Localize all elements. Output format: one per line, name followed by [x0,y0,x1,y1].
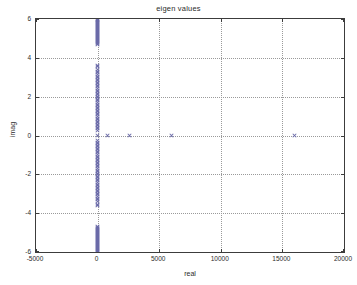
y-axis-tick [341,19,344,20]
x-axis-tick [282,249,283,252]
y-tick-label: 6 [8,15,31,22]
y-axis-tick [36,174,39,175]
y-axis-label: imag [9,110,16,150]
plot-area [35,18,345,253]
y-axis-tick [36,251,39,252]
x-axis-tick [159,249,160,252]
x-axis-tick [159,19,160,22]
x-tick-label: 5000 [151,255,165,262]
x-axis-tick [98,19,99,22]
y-axis-tick [36,213,39,214]
gridline-horizontal [36,174,344,175]
x-axis-tick [221,249,222,252]
y-tick-label: -2 [8,170,31,177]
y-axis-tick [341,136,344,137]
x-axis-tick [98,249,99,252]
y-axis-tick [36,19,39,20]
gridline-horizontal [36,58,344,59]
x-tick-label: 15000 [272,255,290,262]
x-tick-label: 10000 [211,255,229,262]
y-axis-tick [36,97,39,98]
x-tick-label: -5000 [27,255,44,262]
x-axis-label: real [35,270,345,277]
chart-title: eigen values [0,4,357,13]
x-tick-label: 0 [95,255,99,262]
y-axis-tick [36,136,39,137]
x-axis-tick [221,19,222,22]
y-axis-tick [341,174,344,175]
x-axis-tick [282,19,283,22]
y-axis-tick [36,58,39,59]
gridline-horizontal [36,213,344,214]
y-axis-tick [341,213,344,214]
y-tick-label: -6 [8,248,31,255]
x-tick-label: 20000 [334,255,352,262]
y-tick-label: 4 [8,53,31,60]
y-tick-label: 2 [8,92,31,99]
gridline-horizontal [36,136,344,137]
y-axis-tick [341,97,344,98]
y-tick-label: -4 [8,209,31,216]
gridline-horizontal [36,97,344,98]
y-axis-tick [341,58,344,59]
chart-figure: eigen values -500005000100001500020000 6… [0,0,357,285]
y-axis-tick [341,251,344,252]
